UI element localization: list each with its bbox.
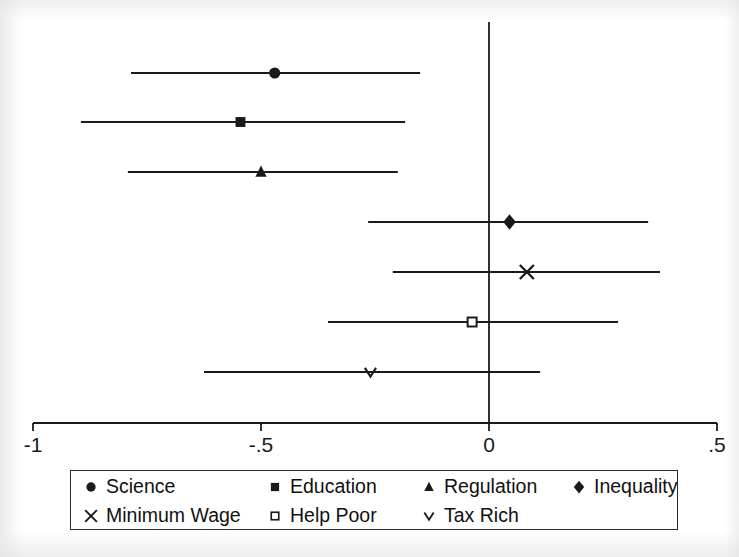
legend-item-label: Minimum Wage [106,506,241,526]
point-estimate-marker [468,318,477,327]
legend-item-label: Help Poor [290,506,377,526]
small-v-icon [421,508,437,524]
x-axis-tick-label: 0 [483,433,495,456]
legend-item-label: Tax Rich [444,506,519,526]
estimate-rows [81,67,660,376]
filled-circle-icon [83,479,99,495]
legend-item-label: Education [290,477,377,497]
point-estimate-marker [236,117,246,127]
coefficient-plot-figure: -1-.50.5 ScienceEducationRegulationInequ… [0,0,739,557]
legend-item-education: Education [267,472,377,501]
estimate-row [328,318,618,327]
estimate-row [128,166,398,177]
x-axis-tick-label: -1 [24,433,43,456]
filled-diamond-icon [571,479,587,495]
legend-row: Minimum WageHelp PoorTax Rich [71,501,677,530]
legend-item-label: Regulation [444,477,537,497]
x-axis-tick-label: .5 [708,433,726,456]
legend-item-tax-rich: Tax Rich [421,501,519,530]
legend-item-help-poor: Help Poor [267,501,377,530]
estimate-row [393,265,660,279]
point-estimate-marker [503,214,516,229]
legend-item-label: Inequality [594,477,677,497]
legend-item-regulation: Regulation [421,472,537,501]
legend-item-label: Science [106,477,175,497]
legend-row: ScienceEducationRegulationInequality [71,472,677,501]
point-estimate-marker [269,67,280,78]
x-axis-tick-label: -.5 [249,433,274,456]
filled-square-icon [267,479,283,495]
estimate-row [81,117,405,127]
open-square-icon [267,508,283,524]
legend-item-inequality: Inequality [571,472,677,501]
legend-item-science: Science [83,472,175,501]
legend: ScienceEducationRegulationInequality Min… [70,470,678,530]
cross-x-icon [83,508,99,524]
estimate-row [368,214,648,229]
filled-triangle-icon [421,479,437,495]
legend-item-minimum-wage: Minimum Wage [83,501,241,530]
estimate-row [131,67,420,78]
x-axis: -1-.50.5 [24,423,726,456]
